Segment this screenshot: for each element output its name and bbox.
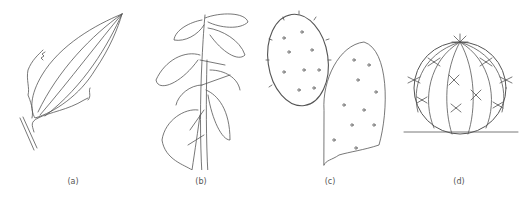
- panel-c: (c): [264, 0, 394, 197]
- prickly-pear-illustration: [264, 0, 394, 170]
- panel-d-label: (d): [444, 177, 474, 186]
- barrel-cactus-illustration: [394, 0, 528, 170]
- panel-a-label: (a): [58, 177, 88, 186]
- panel-b: (b): [130, 0, 260, 197]
- areole-dots: [283, 31, 377, 149]
- leaf-illustration: [0, 0, 130, 170]
- panel-c-label: (c): [315, 177, 345, 186]
- leafy-stem-illustration: [130, 0, 260, 170]
- spine-clusters: [408, 34, 512, 112]
- panel-b-label: (b): [186, 177, 216, 186]
- panel-a: (a): [0, 0, 130, 197]
- panel-d: (d): [394, 0, 528, 197]
